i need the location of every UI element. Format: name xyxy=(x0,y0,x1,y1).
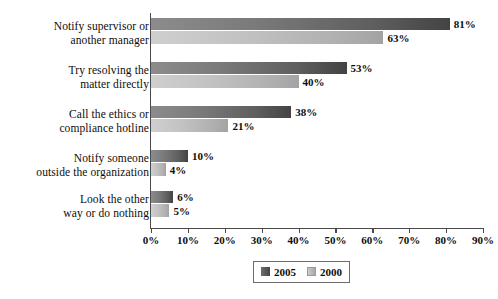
category-label-0: Notify supervisor or another manager xyxy=(0,20,149,47)
bar-2005-0[interactable] xyxy=(151,18,450,31)
x-axis-tick xyxy=(446,228,447,233)
category-label-2: Call the ethics or compliance hotline xyxy=(0,108,149,135)
x-axis-tick xyxy=(483,228,484,233)
x-axis-tick xyxy=(151,228,152,233)
bar-value-label: 40% xyxy=(303,76,325,88)
x-axis-tick xyxy=(225,228,226,233)
x-axis-tick-label: 90% xyxy=(463,234,498,246)
bar-2000-2[interactable] xyxy=(151,119,228,132)
x-axis-tick xyxy=(372,228,373,233)
category-label-3: Notify someone outside the organization xyxy=(0,152,149,179)
bar-2005-4[interactable] xyxy=(151,191,173,204)
x-axis-tick xyxy=(299,228,300,233)
legend-item-2005[interactable]: 2005 xyxy=(261,266,296,278)
legend-item-2000[interactable]: 2000 xyxy=(307,266,342,278)
x-axis-tick-label: 0% xyxy=(131,234,171,246)
x-axis-tick-label: 30% xyxy=(242,234,282,246)
x-axis-tick-label: 60% xyxy=(352,234,392,246)
bar-value-label: 6% xyxy=(177,191,194,203)
x-axis-tick xyxy=(409,228,410,233)
bar-value-label: 81% xyxy=(454,18,476,30)
x-axis-tick xyxy=(335,228,336,233)
percent-axis-line xyxy=(150,228,483,229)
bar-value-label: 4% xyxy=(170,164,187,176)
x-axis-tick-label: 50% xyxy=(315,234,355,246)
bar-2005-2[interactable] xyxy=(151,106,291,119)
bar-2005-3[interactable] xyxy=(151,150,188,163)
chart-legend: 2005 2000 xyxy=(253,261,350,283)
x-axis-tick xyxy=(262,228,263,233)
x-axis-tick-label: 20% xyxy=(205,234,245,246)
bar-value-label: 21% xyxy=(232,120,254,132)
bar-value-label: 5% xyxy=(173,205,190,217)
x-axis-tick-label: 40% xyxy=(279,234,319,246)
bar-2000-0[interactable] xyxy=(151,31,383,44)
x-axis-tick xyxy=(188,228,189,233)
bar-value-label: 38% xyxy=(295,106,317,118)
x-axis-tick-label: 80% xyxy=(426,234,466,246)
legend-label-2005: 2005 xyxy=(274,266,296,278)
category-label-4: Look the other way or do nothing xyxy=(0,193,149,220)
bar-2000-4[interactable] xyxy=(151,204,169,217)
bar-value-label: 10% xyxy=(192,150,214,162)
bar-value-label: 63% xyxy=(387,32,409,44)
bar-2005-1[interactable] xyxy=(151,62,347,75)
x-axis-tick-label: 70% xyxy=(389,234,429,246)
legend-swatch-icon-2000 xyxy=(307,267,316,276)
bar-2000-1[interactable] xyxy=(151,75,299,88)
x-axis-tick-label: 10% xyxy=(168,234,208,246)
bar-value-label: 53% xyxy=(351,62,373,74)
category-label-1: Try resolving the matter directly xyxy=(0,64,149,91)
legend-label-2000: 2000 xyxy=(320,266,342,278)
bar-2000-3[interactable] xyxy=(151,163,166,176)
legend-swatch-icon-2005 xyxy=(261,267,270,276)
